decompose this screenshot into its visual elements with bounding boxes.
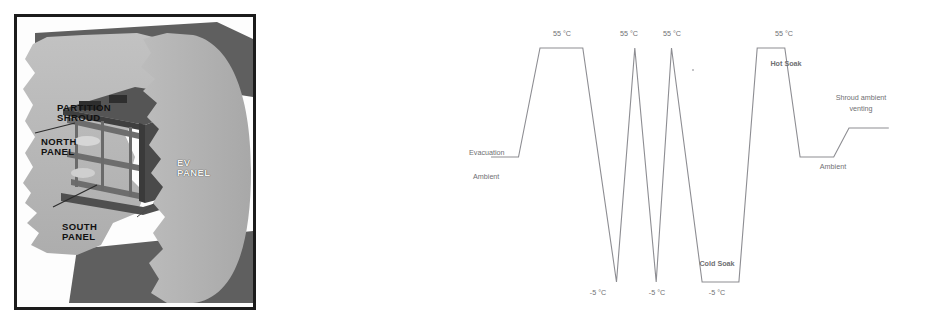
ev-panel-side-edge (139, 123, 145, 203)
left-illustration-panel: PARTITION SHROUD NORTH PANEL EV PANEL SO… (0, 0, 466, 323)
figure-root: PARTITION SHROUD NORTH PANEL EV PANEL SO… (0, 0, 932, 323)
shroud-cutaway-svg (17, 17, 253, 307)
tank-upper (74, 136, 100, 146)
strut-right (129, 127, 132, 197)
ink-speck (692, 69, 694, 71)
equipment-block-b (109, 95, 127, 103)
tank-lower (71, 168, 95, 178)
illustration-frame: PARTITION SHROUD NORTH PANEL EV PANEL SO… (14, 14, 256, 310)
temperature-profile-polyline (491, 48, 889, 282)
thermal-profile-line (466, 0, 932, 323)
strut-mid (101, 121, 104, 191)
equipment-block-a (79, 101, 101, 110)
thermal-profile-chart: Evacuation Ambient 55 °C 55 °C 55 °C 55 … (466, 0, 932, 323)
